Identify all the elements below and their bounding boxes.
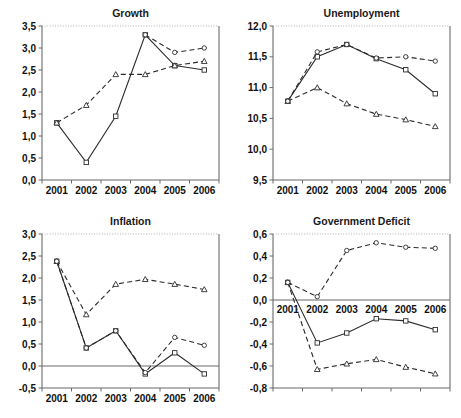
data-point-marker-triangle [113,72,119,77]
data-point-marker-circle [114,329,118,333]
series-line-square [288,44,436,101]
y-tick-label: 3,0 [22,229,36,240]
data-point-marker-circle [202,343,206,347]
y-tick-label: -0,5 [19,383,37,394]
x-tick-label: 2001 [46,185,69,196]
x-tick-label: 2005 [164,393,187,404]
y-tick-label: 0,5 [22,339,36,350]
data-point-marker-triangle [432,124,438,129]
data-point-marker-triangle [403,364,409,369]
data-point-marker-circle [286,99,290,103]
series-line-circle [288,243,436,297]
data-point-marker-triangle [344,101,350,106]
chart-svg: Growth0,00,51,01,52,02,53,03,52001200220… [0,0,230,210]
x-tick-label: 2001 [277,185,300,196]
x-tick-label: 2005 [164,185,187,196]
chart-panel-government-deficit: Government Deficit-0,8-0,6-0,4-0,20,00,2… [231,208,461,418]
x-tick-label: 2002 [306,304,329,315]
y-tick-label: 0,6 [253,229,267,240]
data-point-marker-triangle [373,357,379,362]
y-tick-label: 2,5 [22,251,36,262]
data-point-marker-triangle [113,281,119,286]
y-tick-label: 0,4 [253,251,267,262]
data-point-marker-square [404,68,408,72]
data-point-marker-circle [345,248,349,252]
data-point-marker-square [114,114,118,118]
y-tick-label: 0,5 [22,153,36,164]
data-point-marker-circle [173,50,177,54]
data-point-marker-circle [173,335,177,339]
data-point-marker-triangle [314,85,320,90]
y-tick-label: 3,0 [22,43,36,54]
series-line-square [57,261,205,374]
x-tick-label: 2002 [75,393,98,404]
data-point-marker-triangle [432,371,438,376]
data-point-marker-triangle [201,58,207,63]
x-tick-label: 2002 [75,185,98,196]
y-tick-label: 0,0 [253,295,267,306]
data-point-marker-circle [143,370,147,374]
y-tick-label: 1,5 [22,295,36,306]
y-tick-label: 0,2 [253,273,267,284]
chart-title: Inflation [110,215,151,227]
data-point-marker-circle [404,55,408,59]
series-line-circle [57,261,205,372]
data-point-marker-triangle [83,312,89,317]
y-tick-label: 0,0 [22,175,36,186]
y-tick-label: 10,5 [248,113,268,124]
x-tick-label: 2004 [365,304,388,315]
data-point-marker-circle [433,59,437,63]
series-line-square [57,35,205,163]
series-line-circle [288,44,436,101]
data-point-marker-circle [84,346,88,350]
x-tick-label: 2001 [46,393,69,404]
data-point-marker-square [374,317,378,321]
data-point-marker-square [202,372,206,376]
y-tick-label: 9,5 [253,175,267,186]
data-point-marker-circle [433,246,437,250]
x-tick-label: 2003 [105,393,128,404]
series-line-triangle [288,88,436,127]
y-tick-label: 1,0 [22,317,36,328]
data-point-marker-triangle [142,277,148,282]
y-tick-label: 2,0 [22,273,36,284]
x-tick-label: 2004 [365,185,388,196]
data-point-marker-square [433,328,437,332]
data-point-marker-circle [315,50,319,54]
y-tick-label: -0,6 [250,361,268,372]
data-point-marker-circle [315,295,319,299]
data-point-marker-square [315,341,319,345]
data-point-marker-square [84,160,88,164]
series-line-triangle [57,61,205,123]
data-point-marker-square [173,351,177,355]
chart-panel-inflation: Inflation-0,50,00,51,01,52,02,53,0200120… [0,208,230,418]
y-tick-label: -0,2 [250,317,268,328]
y-tick-label: 2,0 [22,87,36,98]
y-tick-label: -0,8 [250,383,268,394]
data-point-marker-square [404,319,408,323]
chart-title: Growth [112,7,149,19]
y-tick-label: 1,0 [22,131,36,142]
chart-svg: Unemployment9,510,010,511,011,512,020012… [231,0,461,210]
data-point-marker-circle [404,245,408,249]
y-tick-label: 0,0 [22,361,36,372]
data-point-marker-circle [286,280,290,284]
y-tick-label: 3,5 [22,21,36,32]
data-point-marker-square [345,331,349,335]
y-tick-label: 11,5 [248,51,267,62]
data-point-marker-triangle [172,281,178,286]
data-point-marker-circle [374,241,378,245]
x-tick-label: 2004 [134,185,157,196]
figure-panel-grid: Growth0,00,51,01,52,02,53,03,52001200220… [0,0,461,418]
x-tick-label: 2005 [395,185,418,196]
x-tick-label: 2005 [395,304,418,315]
axis-lines [273,26,450,180]
data-point-marker-circle [202,46,206,50]
data-point-marker-square [202,68,206,72]
chart-panel-growth: Growth0,00,51,01,52,02,53,03,52001200220… [0,0,230,210]
x-tick-label: 2006 [424,185,447,196]
series-line-triangle [57,261,205,314]
chart-title: Government Deficit [313,215,410,227]
data-point-marker-circle [55,259,59,263]
chart-svg: Government Deficit-0,8-0,6-0,4-0,20,00,2… [231,208,461,418]
